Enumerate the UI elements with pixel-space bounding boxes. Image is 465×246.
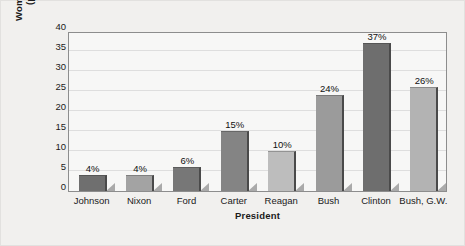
- bar[interactable]: [221, 131, 249, 191]
- y-axis-title: Women Appointees (percentage): [9, 0, 39, 59]
- x-axis-tick-label: Reagan: [265, 195, 298, 207]
- y-axis-tick-label: 10: [39, 142, 66, 152]
- bar-group[interactable]: 4%: [126, 175, 154, 191]
- y-axis-tick-label: 25: [39, 82, 66, 92]
- bar-value-label: 6%: [181, 155, 195, 166]
- bar-value-label: 24%: [320, 83, 339, 94]
- bar-value-label: 26%: [415, 75, 434, 86]
- bar-group[interactable]: 4%: [79, 175, 107, 191]
- bar-value-label: 15%: [225, 119, 244, 130]
- x-axis-tick-label: Bush: [318, 195, 340, 207]
- x-axis-tick-label: Bush, G.W.: [399, 195, 447, 207]
- x-axis-tick-label: Nixon: [127, 195, 151, 207]
- x-axis-tick-labels: JohnsonNixonFordCarterReaganBushClintonB…: [68, 195, 447, 209]
- bar-group[interactable]: 24%: [316, 95, 344, 191]
- bar[interactable]: [268, 151, 296, 191]
- bar[interactable]: [79, 175, 107, 191]
- x-axis-tick-label: Ford: [177, 195, 197, 207]
- bars-layer: 4%4%6%15%10%24%37%26%: [69, 33, 446, 191]
- bar[interactable]: [410, 87, 438, 191]
- y-axis-tick-label: 30: [39, 62, 66, 72]
- bar[interactable]: [316, 95, 344, 191]
- bar-group[interactable]: 37%: [363, 43, 391, 191]
- y-axis-tick-label: 15: [39, 122, 66, 132]
- chart-figure: Women Appointees (percentage) 0510152025…: [0, 0, 465, 246]
- bar-value-label: 10%: [273, 139, 292, 150]
- y-axis-title-line2: (percentage): [24, 0, 36, 5]
- y-axis-tick-label: 20: [39, 102, 66, 112]
- bar[interactable]: [126, 175, 154, 191]
- bar-value-label: 4%: [86, 163, 100, 174]
- y-axis-title-line1: Women Appointees: [13, 0, 25, 21]
- x-axis-tick-label: Carter: [221, 195, 247, 207]
- x-axis-tick-label: Johnson: [74, 195, 110, 207]
- y-axis-tick-label: 40: [39, 22, 66, 32]
- bar-value-label: 37%: [367, 32, 386, 42]
- y-axis-tick-labels: 0510152025303540: [39, 27, 66, 197]
- y-axis-tick-label: 0: [39, 182, 66, 192]
- bar-value-label: 4%: [133, 163, 147, 174]
- bar-group[interactable]: 15%: [221, 131, 249, 191]
- bar[interactable]: [363, 43, 391, 191]
- y-axis-tick-label: 5: [39, 162, 66, 172]
- bar[interactable]: [173, 167, 201, 191]
- x-axis-tick-label: Clinton: [361, 195, 391, 207]
- plot-area: 4%4%6%15%10%24%37%26%: [68, 32, 447, 192]
- x-axis-title: President: [68, 210, 447, 221]
- bar-group[interactable]: 6%: [173, 167, 201, 191]
- bar-group[interactable]: 10%: [268, 151, 296, 191]
- bar-group[interactable]: 26%: [410, 87, 438, 191]
- y-axis-tick-label: 35: [39, 42, 66, 52]
